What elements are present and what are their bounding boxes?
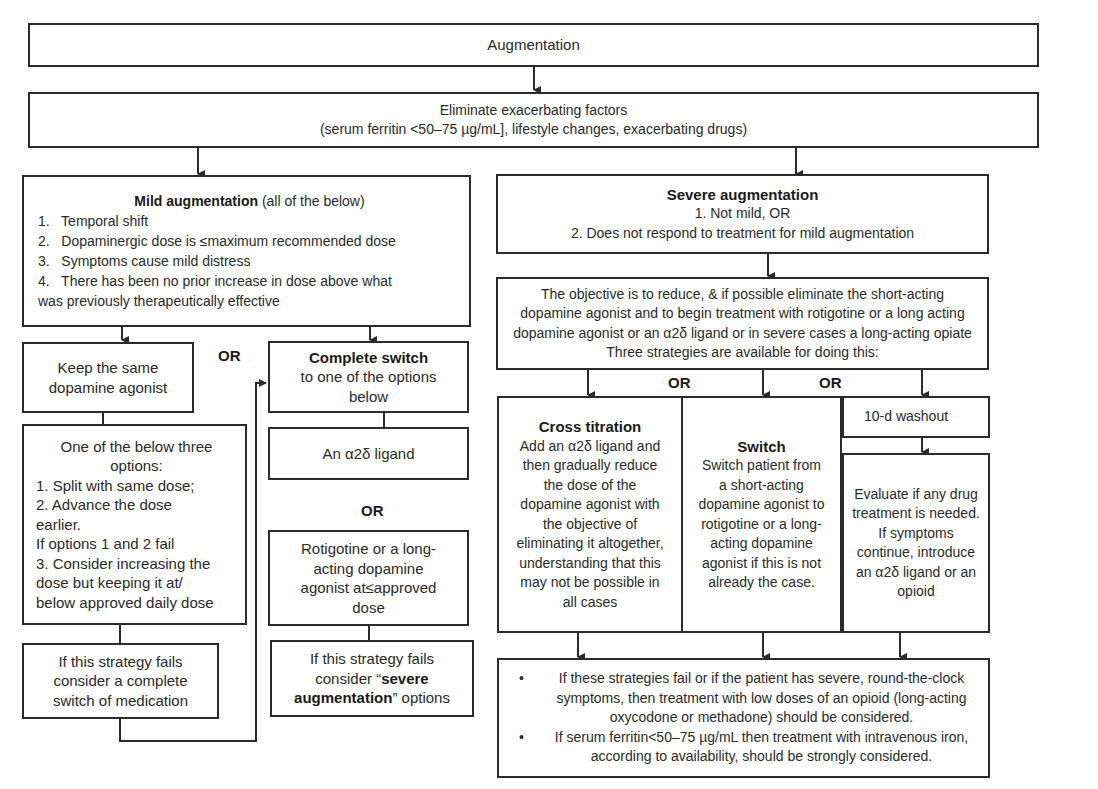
one-of-three-options-box: One of the below three options: 1. Split… [22, 424, 247, 625]
severe-augmentation-box: Severe augmentation 1. Not mild, OR 2. D… [496, 174, 989, 254]
eliminate-factors-box: Eliminate exacerbating factors (serum fe… [28, 92, 1039, 148]
mild-heading: Mild augmentation (all of the below) [38, 191, 461, 211]
rotigotine-line: agonist at≤approved [270, 578, 467, 598]
strategy-fails-switch-box: If this strategy fails consider a comple… [22, 643, 219, 719]
mild-item-4-cont: was previously therapeutically effective [38, 291, 461, 311]
severe-line1: 1. Not mild, OR [498, 204, 987, 224]
or-label-3: OR [668, 374, 691, 391]
alpha2delta-ligand-box: An α2δ ligand [268, 427, 469, 480]
mild-heading-bold: Mild augmentation [134, 193, 258, 209]
cross-line: dopamine agonist with [499, 495, 681, 515]
switch-heading: Switch [683, 437, 840, 457]
cross-line: Add an α2δ ligand and [499, 437, 681, 457]
switch-line: a short-acting [683, 476, 840, 496]
objective-line: The objective is to reduce, & if possibl… [498, 285, 987, 305]
augmentation-box: Augmentation [28, 23, 1039, 67]
complete-switch-box: Complete switch to one of the options be… [268, 341, 469, 413]
switch-line: already the case. [683, 573, 840, 593]
complete-switch-line2: below [270, 387, 467, 407]
mild-item-3: 3. Symptoms cause mild distress [38, 251, 461, 271]
cross-line: may not be possible in [499, 573, 681, 593]
fails-left-line: switch of medication [24, 691, 217, 711]
fails-mid-line1: If this strategy fails [272, 649, 472, 669]
severe-line2: 2. Does not respond to treatment for mil… [498, 224, 987, 244]
rotigotine-box: Rotigotine or a long- acting dopamine ag… [268, 530, 469, 626]
option-line: dose but keeping it at/ [36, 573, 237, 593]
mild-augmentation-box: Mild augmentation (all of the below) 1. … [22, 175, 471, 327]
augmentation-title: Augmentation [30, 35, 1037, 55]
option-line: earlier. [36, 515, 237, 535]
evaluate-line: Evaluate if any drug [844, 485, 988, 505]
evaluate-line: an α2δ ligand or an [844, 563, 988, 583]
fails-left-line: If this strategy fails [24, 652, 217, 672]
keep-same-line1: Keep the same [24, 358, 192, 378]
or-label-1: OR [218, 347, 241, 364]
evaluate-line: continue, introduce [844, 543, 988, 563]
or-label-4: OR [819, 374, 842, 391]
rotigotine-line: acting dopamine [270, 559, 467, 579]
keep-same-agonist-box: Keep the same dopamine agonist [22, 342, 194, 413]
objective-box: The objective is to reduce, & if possibl… [496, 277, 989, 370]
rotigotine-line: dose [270, 598, 467, 618]
fails-mid-line2-pre: consider “ [315, 670, 381, 687]
washout-label: 10-d washout [864, 407, 988, 427]
final-bullet-opioid: If these strategies fail or if the patie… [523, 669, 972, 728]
complete-switch-heading: Complete switch [270, 348, 467, 368]
objective-line: dopamine agonist and to begin treatment … [498, 304, 987, 324]
options-heading-2: options: [36, 456, 237, 476]
fails-mid-line3: augmentation” options [272, 688, 472, 708]
severe-heading: Severe augmentation [498, 185, 987, 205]
fails-mid-line2: consider “severe [272, 669, 472, 689]
switch-line: rotigotine or a long- [683, 515, 840, 535]
eliminate-line1: Eliminate exacerbating factors [30, 101, 1037, 121]
cross-line: eliminating it altogether, [499, 534, 681, 554]
mild-item-4: 4. There has been no prior increase in d… [38, 271, 461, 291]
switch-line: acting dopamine [683, 534, 840, 554]
alpha-ligand-label: An α2δ ligand [270, 444, 467, 464]
evaluate-line: opioid [844, 582, 988, 602]
option-line: 3. Consider increasing the [36, 554, 237, 574]
evaluate-box: Evaluate if any drug treatment is needed… [842, 453, 990, 633]
option-line: 1. Split with same dose; [36, 476, 237, 496]
fails-mid-line3-bold: augmentation [294, 689, 392, 706]
cross-titration-heading: Cross titration [499, 417, 681, 437]
evaluate-line: treatment is needed. [844, 504, 988, 524]
cross-line: the dose of the [499, 476, 681, 496]
switch-line: dopamine agonist to [683, 495, 840, 515]
rotigotine-line: Rotigotine or a long- [270, 539, 467, 559]
eliminate-line2: (serum ferritin <50–75 µg/mL], lifestyle… [30, 120, 1037, 140]
fails-mid-line2-bold: severe [381, 670, 429, 687]
washout-box: 10-d washout [842, 396, 990, 438]
cross-line: the objective of [499, 515, 681, 535]
switch-line: Switch patient from [683, 456, 840, 476]
final-bullet-list: If these strategies fail or if the patie… [509, 669, 972, 767]
switch-line: agonist if this is not [683, 554, 840, 574]
options-heading-1: One of the below three [36, 437, 237, 457]
strategy-fails-severe-box: If this strategy fails consider “severe … [270, 640, 474, 717]
mild-heading-rest: (all of the below) [258, 193, 365, 209]
keep-same-line2: dopamine agonist [24, 378, 192, 398]
switch-box: Switch Switch patient from a short-actin… [681, 396, 842, 633]
option-line: 2. Advance the dose [36, 495, 237, 515]
final-recommendations-box: If these strategies fail or if the patie… [497, 658, 990, 778]
or-label-2: OR [361, 502, 384, 519]
objective-line: dopamine agonist or an α2δ ligand or in … [498, 324, 987, 344]
cross-line: all cases [499, 593, 681, 613]
mild-item-2: 2. Dopaminergic dose is ≤maximum recomme… [38, 231, 461, 251]
option-line: below approved daily dose [36, 593, 237, 613]
option-line: If options 1 and 2 fail [36, 534, 237, 554]
objective-line: Three strategies are available for doing… [498, 343, 987, 363]
final-bullet-iron: If serum ferritin<50–75 µg/mL then treat… [523, 728, 972, 767]
evaluate-line: If symptoms [844, 524, 988, 544]
cross-titration-box: Cross titration Add an α2δ ligand and th… [497, 396, 683, 633]
mild-item-1: 1. Temporal shift [38, 211, 461, 231]
cross-line: then gradually reduce [499, 456, 681, 476]
fails-left-line: consider a complete [24, 671, 217, 691]
complete-switch-line1: to one of the options [270, 367, 467, 387]
fails-mid-line3-post: ” options [392, 689, 450, 706]
cross-line: understanding that this [499, 554, 681, 574]
